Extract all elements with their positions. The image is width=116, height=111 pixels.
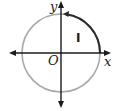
origin-label: O (48, 54, 59, 67)
unit-circle-diagram: y O x I (0, 0, 116, 111)
arc-arrowhead-icon (63, 11, 69, 17)
x-axis-label: x (104, 55, 111, 68)
y-axis-label: y (50, 0, 57, 13)
y-axis-up-arrow-icon (58, 1, 64, 8)
quadrant-label: I (76, 32, 80, 44)
quadrant-one-arc (66, 14, 100, 53)
x-axis-left-arrow-icon (9, 50, 16, 56)
y-axis-down-arrow-icon (58, 101, 64, 108)
